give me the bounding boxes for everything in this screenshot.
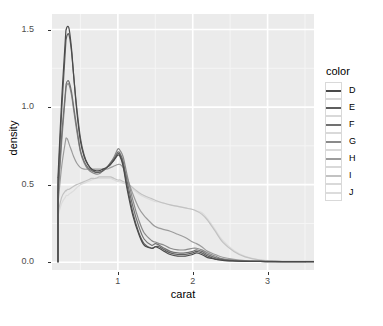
legend-item-e[interactable]: E bbox=[325, 99, 383, 116]
legend-key-swatch bbox=[325, 133, 342, 150]
legend-item-g[interactable]: G bbox=[325, 133, 383, 150]
legend-key-line bbox=[326, 141, 341, 143]
legend-key-swatch bbox=[325, 184, 342, 201]
legend-items: DEFGHIJ bbox=[325, 82, 383, 201]
legend-label: J bbox=[349, 188, 354, 197]
legend-item-d[interactable]: D bbox=[325, 82, 383, 99]
legend-key-line bbox=[326, 158, 341, 160]
x-tick-mark bbox=[118, 272, 119, 275]
legend-label: I bbox=[349, 171, 352, 180]
legend-key-swatch bbox=[325, 150, 342, 167]
legend-key-swatch bbox=[325, 116, 342, 133]
x-tick-mark bbox=[268, 272, 269, 275]
legend-item-i[interactable]: I bbox=[325, 167, 383, 184]
legend-title: color bbox=[326, 66, 383, 77]
legend-label: D bbox=[349, 86, 356, 95]
y-axis-title: density bbox=[7, 108, 19, 168]
legend-key-line bbox=[326, 124, 341, 126]
legend-key-swatch bbox=[325, 99, 342, 116]
chart-figure: 0.00.51.01.5 123 carat density color DEF… bbox=[0, 0, 383, 326]
legend-label: F bbox=[349, 120, 355, 129]
legend-key-line bbox=[326, 192, 341, 194]
x-tick-mark bbox=[193, 272, 194, 275]
legend-key-swatch bbox=[325, 82, 342, 99]
legend: color DEFGHIJ bbox=[325, 66, 383, 201]
legend-item-j[interactable]: J bbox=[325, 184, 383, 201]
legend-label: E bbox=[349, 103, 355, 112]
x-tick-label: 2 bbox=[173, 277, 213, 286]
legend-key-line bbox=[326, 175, 341, 177]
legend-key-swatch bbox=[325, 167, 342, 184]
x-tick-label: 3 bbox=[248, 277, 288, 286]
legend-label: H bbox=[349, 154, 356, 163]
x-tick-label: 1 bbox=[98, 277, 138, 286]
legend-item-h[interactable]: H bbox=[325, 150, 383, 167]
legend-key-line bbox=[326, 107, 341, 109]
legend-item-f[interactable]: F bbox=[325, 116, 383, 133]
legend-label: G bbox=[349, 137, 356, 146]
x-axis-title: carat bbox=[52, 288, 314, 300]
legend-key-line bbox=[326, 90, 341, 92]
